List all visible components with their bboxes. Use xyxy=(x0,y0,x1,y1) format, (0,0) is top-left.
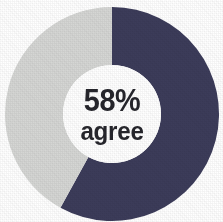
center-caption-text: agree xyxy=(67,118,156,144)
center-value-text: 58% xyxy=(67,85,156,116)
donut-chart-figure: 58% agree xyxy=(0,0,223,222)
donut-center-label: 58% agree xyxy=(64,85,160,144)
